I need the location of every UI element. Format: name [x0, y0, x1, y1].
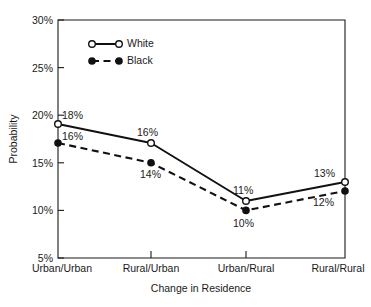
data-label-white-4: 13%: [314, 167, 335, 179]
x-axis-ticks: [151, 251, 246, 258]
y-tick-label-15: 15%: [32, 157, 53, 169]
data-label-black-1: 16%: [62, 130, 83, 142]
legend-item-white[interactable]: White: [89, 37, 154, 49]
series-white-point-2: [148, 140, 155, 147]
y-tick-label-25: 25%: [32, 62, 53, 74]
series-black: [55, 140, 348, 214]
x-tick-label-rural-rural: Rural/Rural: [311, 262, 364, 274]
data-label-white-3: 11%: [233, 184, 253, 196]
data-label-black-2: 14%: [140, 168, 161, 180]
data-label-white-1: 18%: [62, 109, 83, 121]
chart-legend: White Black: [89, 37, 154, 66]
x-tick-label-urban-rural: Urban/Rural: [218, 262, 275, 274]
y-tick-label-20: 20%: [32, 109, 53, 121]
series-black-point-3: [243, 207, 249, 213]
x-tick-label-rural-urban: Rural/Urban: [123, 262, 180, 274]
series-white-point-3: [243, 198, 250, 205]
chart-canvas: 30% 25% 20% 15% 10% 5% Probability Urban…: [0, 0, 371, 307]
line-chart-figure: 30% 25% 20% 15% 10% 5% Probability Urban…: [0, 0, 371, 307]
plot-border: [58, 20, 345, 258]
series-white-line: [58, 124, 345, 201]
series-white-point-1: [55, 121, 62, 128]
legend-item-black[interactable]: Black: [89, 54, 154, 66]
y-tick-label-10: 10%: [32, 204, 53, 216]
series-white-point-4: [342, 179, 349, 186]
plot-frame: [58, 20, 345, 258]
data-label-white-2: 16%: [137, 126, 158, 138]
data-label-black-3: 10%: [233, 217, 254, 229]
series-black-point-2: [148, 160, 154, 166]
legend-white-marker-left: [89, 41, 96, 48]
series-black-point-4: [342, 188, 348, 194]
y-tick-label-30: 30%: [32, 14, 53, 26]
legend-white-marker-right: [116, 41, 123, 48]
legend-black-marker-left: [89, 58, 95, 64]
legend-label-black: Black: [127, 54, 153, 66]
x-axis-title: Change in Residence: [151, 282, 252, 294]
x-axis-tick-labels: Urban/Urban Rural/Urban Urban/Rural Rura…: [32, 262, 365, 274]
legend-label-white: White: [127, 37, 154, 49]
y-axis-title: Probability: [7, 114, 19, 164]
data-label-black-4: 12%: [313, 196, 334, 208]
legend-black-marker-right: [116, 58, 122, 64]
y-axis-tick-labels: 30% 25% 20% 15% 10% 5%: [32, 14, 53, 264]
series-black-line: [58, 143, 345, 210]
x-tick-label-urban-urban: Urban/Urban: [32, 262, 92, 274]
series-black-data-labels: 16% 14% 10% 12%: [62, 130, 334, 229]
series-white-data-labels: 18% 16% 11% 13%: [62, 109, 335, 196]
series-black-point-1: [55, 140, 61, 146]
series-white: [55, 121, 349, 205]
